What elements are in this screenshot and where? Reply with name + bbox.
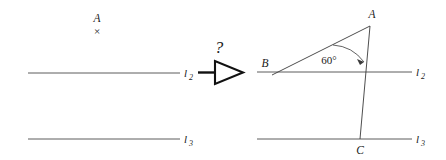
- right-line-l2-subscript: 2: [421, 72, 425, 81]
- angle-arc: [333, 45, 364, 62]
- left-line-l2-label: l: [184, 67, 187, 79]
- point-a-cross-icon: ×: [94, 25, 100, 37]
- vertex-a-label: A: [367, 8, 376, 20]
- angle-arc-arrowhead-icon: [357, 59, 364, 65]
- right-line-l2-label: l: [416, 66, 419, 78]
- figure-canvas: A × l 2 l 3 ? l 2 l: [0, 0, 446, 160]
- vertex-b-label: B: [261, 57, 268, 69]
- question-mark-label: ?: [215, 38, 224, 57]
- transition-group: ?: [198, 38, 243, 84]
- left-panel-given: A × l 2 l 3: [28, 12, 193, 148]
- right-line-l3-subscript: 3: [420, 139, 425, 148]
- left-line-l3-subscript: 3: [188, 139, 193, 148]
- right-panel-solution: l 2 l 3 60° A B C: [257, 8, 425, 156]
- segment-ab: [272, 26, 370, 75]
- right-line-l3-label: l: [416, 133, 419, 145]
- geometry-figure: A × l 2 l 3 ? l 2 l: [0, 0, 446, 160]
- left-line-l3-label: l: [184, 133, 187, 145]
- right-arrow-outline-icon: [215, 61, 243, 84]
- point-a-label: A: [92, 12, 101, 24]
- angle-60-label: 60°: [321, 54, 336, 66]
- vertex-c-label: C: [356, 144, 364, 156]
- left-line-l2-subscript: 2: [189, 73, 193, 82]
- segment-ac: [360, 26, 370, 139]
